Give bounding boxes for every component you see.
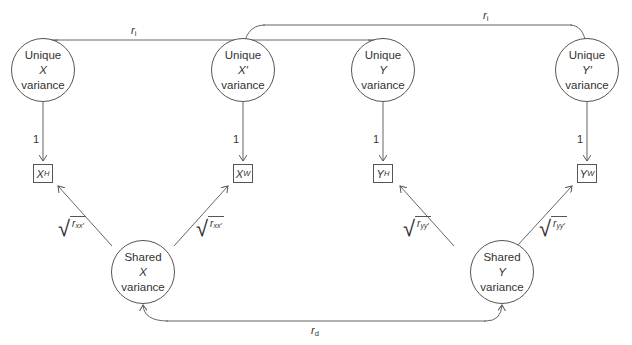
node-variable: X	[39, 63, 47, 78]
node-label: variance	[361, 78, 404, 93]
node-label: Unique	[25, 48, 61, 63]
sqrt-reliability-label: √rxx′	[58, 216, 86, 239]
node-variable: X	[139, 265, 147, 280]
rd-label: rd	[311, 324, 319, 338]
unique-x-node: Unique X variance	[11, 38, 75, 102]
loading-label: 1	[373, 133, 379, 145]
node-label: Unique	[225, 48, 261, 63]
node-label: Unique	[365, 48, 401, 63]
box-sub: H	[384, 169, 389, 178]
corr-sub: d	[315, 329, 319, 338]
sqrt-icon: √	[403, 219, 415, 239]
ri-label: ri	[131, 24, 136, 38]
box-var: Y	[580, 168, 587, 180]
observed-x-w: XW	[233, 164, 253, 183]
node-variable: Y	[498, 265, 506, 280]
sqrt-icon: √	[196, 219, 208, 239]
unique-yprime-node: Unique Y′ variance	[555, 38, 619, 102]
node-label: Unique	[569, 48, 605, 63]
diagram-connectors	[0, 0, 632, 345]
shared-y-node: Shared Y variance	[470, 240, 534, 304]
box-sub: W	[587, 169, 594, 178]
node-label: variance	[565, 78, 608, 93]
sqrt-icon: √	[539, 219, 551, 239]
observed-x-h: XH	[33, 164, 53, 183]
box-var: Y	[377, 168, 384, 180]
sqrt-reliability-label: √ryy′	[403, 216, 431, 239]
sqrt-sub: yy′	[556, 222, 564, 229]
box-var: X	[236, 168, 243, 180]
node-label: variance	[480, 280, 523, 295]
loading-label: 1	[33, 133, 39, 145]
observed-y-h: YH	[373, 164, 393, 183]
unique-xprime-node: Unique X′ variance	[211, 38, 275, 102]
node-label: Shared	[483, 250, 520, 265]
loading-label: 1	[233, 133, 239, 145]
node-variable: Y	[379, 63, 387, 78]
shared-x-node: Shared X variance	[111, 240, 175, 304]
node-label: variance	[221, 78, 264, 93]
sqrt-sub: xx′	[213, 222, 221, 229]
node-variable: X′	[238, 63, 248, 78]
unique-y-node: Unique Y variance	[351, 38, 415, 102]
box-sub: H	[44, 169, 49, 178]
corr-sub: i	[487, 14, 489, 23]
sqrt-reliability-label: √ryy′	[539, 216, 567, 239]
sqrt-reliability-label: √rxx′	[196, 216, 224, 239]
node-variable: Y′	[582, 63, 592, 78]
node-label: variance	[121, 280, 164, 295]
box-var: X	[37, 168, 44, 180]
node-label: variance	[21, 78, 64, 93]
observed-y-w: YW	[577, 164, 597, 183]
node-label: Shared	[124, 250, 161, 265]
ri-label: ri	[483, 9, 488, 23]
sqrt-sub: yy′	[420, 222, 428, 229]
box-sub: W	[243, 169, 250, 178]
loading-label: 1	[577, 133, 583, 145]
sqrt-sub: xx′	[75, 222, 83, 229]
sqrt-icon: √	[58, 219, 70, 239]
corr-sub: i	[135, 29, 137, 38]
